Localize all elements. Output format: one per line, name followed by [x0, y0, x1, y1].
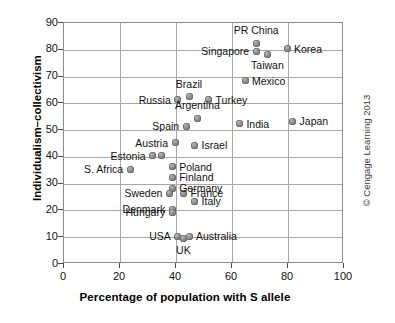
x-tick-mark: [175, 263, 176, 268]
data-point: [127, 166, 134, 173]
data-point: [191, 142, 198, 149]
gridline-vertical: [232, 23, 233, 262]
data-point-label: UK: [176, 245, 191, 256]
y-tick-label: 60: [46, 97, 58, 108]
data-point: [289, 118, 296, 125]
data-point-label: Korea: [294, 43, 322, 54]
data-point: [284, 45, 291, 52]
data-point: [169, 209, 176, 216]
data-point: [158, 152, 165, 159]
y-tick-mark: [58, 102, 63, 103]
y-tick-label: 80: [46, 43, 58, 54]
data-point: [186, 233, 193, 240]
data-point-label: Hungary: [125, 207, 165, 218]
data-point: [194, 115, 201, 122]
data-point-label: Mexico: [252, 75, 285, 86]
scatter-plot-figure: 0102030405060708090020406080100 PR China…: [0, 0, 395, 323]
data-point: [169, 163, 176, 170]
data-point-label: Japan: [300, 116, 329, 127]
gridline-horizontal: [64, 130, 342, 131]
x-tick-mark: [231, 263, 232, 268]
y-tick-mark: [58, 49, 63, 50]
gridline-horizontal: [64, 77, 342, 78]
gridline-vertical: [120, 23, 121, 262]
x-tick-mark: [119, 263, 120, 268]
data-point-label: India: [246, 118, 269, 129]
gridline-horizontal: [64, 157, 342, 158]
x-tick-mark: [343, 263, 344, 268]
data-point: [253, 48, 260, 55]
x-tick-label: 60: [225, 271, 237, 282]
x-axis-title: Percentage of population with S allele: [0, 291, 370, 303]
data-point: [183, 123, 190, 130]
y-tick-mark: [58, 209, 63, 210]
y-tick-mark: [58, 22, 63, 23]
gridline-horizontal: [64, 210, 342, 211]
data-point-label: Israel: [202, 140, 228, 151]
data-point: [169, 174, 176, 181]
x-tick-label: 100: [334, 271, 352, 282]
data-point-label: Argentina: [175, 100, 220, 111]
data-point: [191, 198, 198, 205]
x-tick-mark: [63, 263, 64, 268]
data-point-label: Singapore: [201, 46, 249, 57]
data-point-label: Austria: [135, 137, 168, 148]
data-point-label: S. Africa: [84, 164, 123, 175]
x-tick-label: 0: [60, 271, 66, 282]
data-point-label: Brazil: [176, 79, 202, 90]
data-point-label: Spain: [152, 121, 179, 132]
data-point-label: USA: [149, 231, 171, 242]
x-tick-mark: [287, 263, 288, 268]
x-tick-label: 20: [113, 271, 125, 282]
data-point: [172, 139, 179, 146]
data-point-label: Sweden: [124, 188, 162, 199]
data-point-label: Taiwan: [251, 60, 284, 71]
data-point-label: Russia: [139, 94, 171, 105]
y-tick-label: 0: [52, 258, 58, 269]
data-point-label: Estonia: [111, 150, 146, 161]
y-tick-label: 40: [46, 150, 58, 161]
y-tick-mark: [58, 129, 63, 130]
y-tick-label: 10: [46, 231, 58, 242]
data-point-label: PR China: [234, 25, 279, 36]
y-tick-label: 20: [46, 204, 58, 215]
data-point-label: Turkey: [216, 94, 248, 105]
data-point-label: Italy: [202, 196, 221, 207]
data-point: [242, 77, 249, 84]
data-point: [264, 51, 271, 58]
y-tick-label: 90: [46, 17, 58, 28]
y-tick-mark: [58, 183, 63, 184]
y-tick-mark: [58, 156, 63, 157]
y-tick-label: 30: [46, 177, 58, 188]
y-tick-mark: [58, 76, 63, 77]
data-point: [166, 190, 173, 197]
y-axis-title: Individualism–collectivism: [31, 13, 43, 243]
x-tick-label: 40: [169, 271, 181, 282]
data-point: [253, 40, 260, 47]
data-point-label: Australia: [196, 231, 237, 242]
gridline-vertical: [288, 23, 289, 262]
x-tick-label: 80: [281, 271, 293, 282]
y-tick-mark: [58, 236, 63, 237]
y-tick-label: 70: [46, 70, 58, 81]
copyright-credit: © Cengage Learning 2013: [361, 81, 372, 221]
y-tick-label: 50: [46, 124, 58, 135]
